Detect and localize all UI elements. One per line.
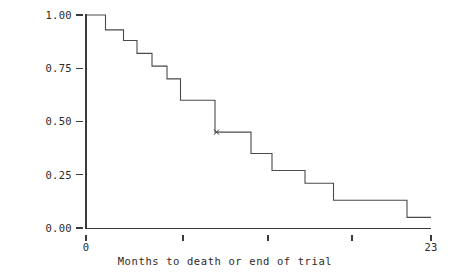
y-tick-label-025: 0.25 [22,169,72,181]
x-tick-label-0: 0 [76,241,96,253]
y-tick-label-000: 0.00 [22,222,72,234]
survival-step-curve [86,15,431,217]
x-tick-marks [86,235,431,241]
y-tick-label-100: 1.00 [22,9,72,21]
plot-canvas [0,0,450,276]
survival-plot-figure: 1.00 0.75 0.50 0.25 0.00 0 23 Months to … [0,0,450,276]
y-tick-label-050: 0.50 [22,115,72,127]
x-tick-label-23: 23 [418,241,444,253]
axes-group [86,14,431,229]
x-axis-title: Months to death or end of trial [0,255,450,267]
y-tick-marks [76,15,83,228]
y-tick-label-075: 0.75 [22,62,72,74]
